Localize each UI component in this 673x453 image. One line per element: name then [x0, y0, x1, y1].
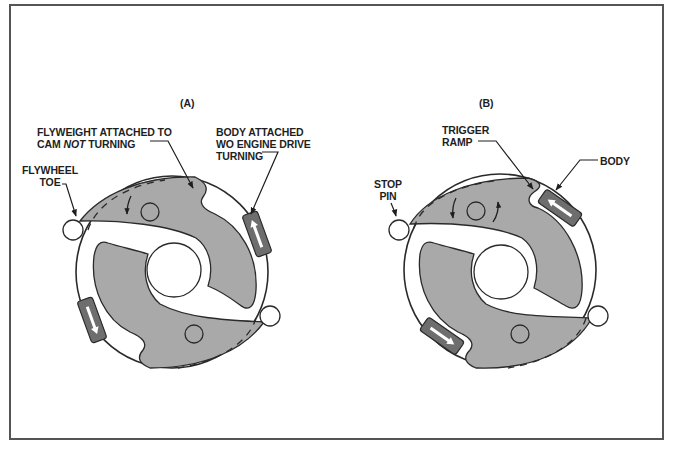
stop-pin-left [389, 220, 409, 240]
label-emphasis: NOT [63, 138, 85, 150]
label-flywheel-toe: FLYWHEEL TOE [22, 164, 78, 188]
label-toe-line2: TOE [22, 176, 78, 188]
leader-toe [62, 184, 76, 216]
label-flyweight-line2: CAM NOT TURNING [37, 138, 172, 150]
panel-b-title: (B) [479, 97, 493, 109]
label-body-attached: BODY ATTACHED WO ENGINE DRIVE TURNING [216, 126, 311, 162]
center-hub [147, 243, 201, 297]
label-toe-line1: FLYWHEEL [22, 164, 78, 176]
flywheel-toe-right [260, 306, 280, 326]
label-trigger-ramp: TRIGGER RAMP [442, 124, 489, 148]
label-flyweight-line1: FLYWEIGHT ATTACHED TO [37, 126, 172, 138]
label-body-line3: TURNING [216, 150, 311, 162]
panel-a-diagram [62, 141, 280, 368]
center-hub-b [474, 245, 528, 299]
label-body-line1: BODY ATTACHED [216, 126, 311, 138]
leader-body-b [556, 160, 598, 190]
label-trigger-line1: TRIGGER [442, 124, 489, 136]
label-stop-line1: STOP [374, 178, 402, 190]
flywheel-toe-left [63, 220, 83, 240]
panel-a-title: (A) [180, 97, 194, 109]
panel-b-diagram [389, 141, 608, 368]
label-stop-pin: STOP PIN [374, 178, 402, 202]
stop-pin-right [588, 306, 608, 326]
label-trigger-line2: RAMP [442, 136, 489, 148]
label-flyweight: FLYWEIGHT ATTACHED TO CAM NOT TURNING [37, 126, 172, 150]
label-body-line2: WO ENGINE DRIVE [216, 138, 311, 150]
label-body: BODY [600, 155, 630, 167]
label-stop-line2: PIN [374, 190, 402, 202]
leader-stop-pin [391, 203, 396, 216]
flywheel-diagrams [0, 0, 673, 453]
